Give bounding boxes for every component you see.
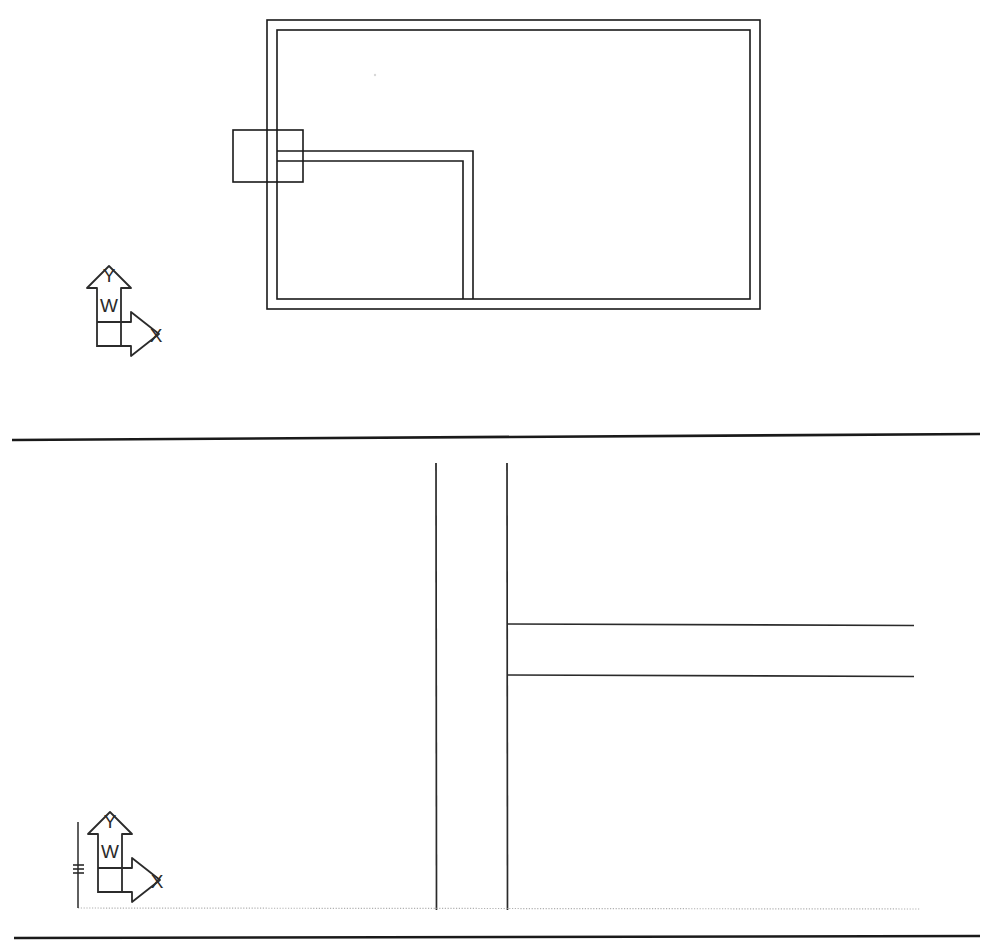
ucs-icon xyxy=(88,812,160,902)
drawing-page: Y W X Y W X xyxy=(0,0,988,945)
partition-inner-edge xyxy=(277,161,463,299)
drawing-canvas: Y W X Y W X xyxy=(0,0,988,945)
ucs-y-label: Y xyxy=(103,265,116,286)
ucs-origin-box xyxy=(97,322,121,346)
ucs-world-label: W xyxy=(101,841,119,862)
interior-partition-wall xyxy=(277,151,473,299)
branch-line-lower xyxy=(507,675,914,677)
scan-speck xyxy=(374,74,376,76)
ucs-y-label: Y xyxy=(104,811,117,832)
ucs-origin-box xyxy=(98,868,122,892)
outer-wall-outer-edge xyxy=(267,20,760,309)
divider-rule-top xyxy=(12,434,980,440)
ucs-icon xyxy=(87,266,159,356)
ucs-x-label: X xyxy=(151,871,164,892)
wall-line-right xyxy=(507,463,508,910)
outer-wall-rectangle xyxy=(267,20,760,309)
ucs-x-label: X xyxy=(150,325,163,346)
wall-line-left xyxy=(436,463,437,910)
branch-line-upper xyxy=(507,624,914,626)
construction-baseline xyxy=(78,908,920,909)
floor-plan-view xyxy=(87,20,760,356)
detail-section-view xyxy=(73,463,920,910)
divider-rule-bottom xyxy=(14,936,980,938)
ucs-world-label: W xyxy=(100,295,118,316)
partition-outer-edge xyxy=(277,151,473,299)
door-opening-block xyxy=(233,130,303,182)
outer-wall-inner-edge xyxy=(277,30,750,299)
